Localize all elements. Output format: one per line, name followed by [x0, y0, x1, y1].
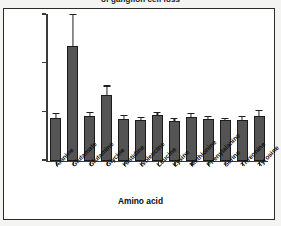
bar-group	[118, 15, 130, 161]
error-bar-cap	[188, 113, 195, 114]
bar-group	[253, 15, 265, 161]
figure-top-title: of ganglion cell loss	[0, 0, 281, 5]
error-bar-cap	[239, 116, 246, 117]
error-bar-cap	[120, 115, 127, 116]
y-tick	[42, 159, 47, 160]
error-bar-cap	[137, 117, 144, 118]
error-bar-cap	[256, 110, 263, 111]
bar-group	[185, 15, 197, 161]
error-bar-stem	[106, 87, 107, 95]
bar-group	[50, 15, 62, 161]
bar-group	[151, 15, 163, 161]
error-bar-stem	[72, 15, 73, 46]
y-tick	[42, 62, 47, 63]
bar	[67, 46, 78, 160]
bar	[50, 118, 61, 161]
error-bar-cap	[222, 118, 229, 119]
bar-group	[168, 15, 180, 161]
error-bar-cap	[69, 14, 76, 15]
x-axis-title: Amino acid	[0, 196, 281, 206]
error-bar-cap	[103, 85, 110, 86]
y-tick	[42, 13, 47, 14]
bar-group	[135, 15, 147, 161]
bar-group	[67, 15, 79, 161]
bar-group	[84, 15, 96, 161]
error-bar-cap	[205, 116, 212, 117]
error-bar-cap	[154, 112, 161, 113]
y-tick	[42, 111, 47, 112]
error-bar-cap	[171, 118, 178, 119]
error-bar-cap	[52, 113, 59, 114]
figure-root: of ganglion cell loss Ratio of amino aci…	[0, 0, 281, 226]
bar-group	[101, 15, 113, 161]
error-bar-cap	[86, 112, 93, 113]
